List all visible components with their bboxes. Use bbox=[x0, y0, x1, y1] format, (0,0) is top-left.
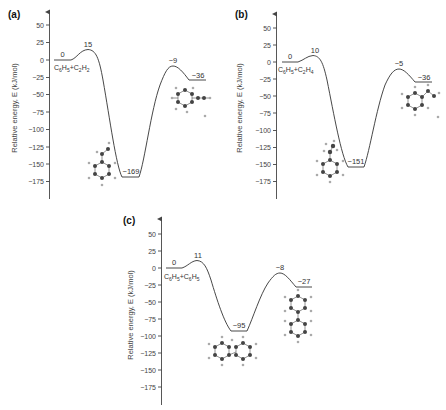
svg-text:50: 50 bbox=[263, 25, 271, 32]
svg-text:0: 0 bbox=[40, 57, 44, 64]
svg-text:25: 25 bbox=[263, 42, 271, 49]
svg-text:−151: −151 bbox=[348, 157, 365, 166]
svg-text:−36: −36 bbox=[418, 73, 431, 82]
molecule-intermediate-b bbox=[316, 140, 345, 184]
energy-diagrams: (a) 50 25 0 −25 −50 −75 −100 −125 −150 −… bbox=[0, 0, 446, 410]
y-ticks-b: 50 25 0 −25 −50 −75 −100 −125 −150 −175 bbox=[255, 25, 276, 186]
reactants-label-c: C6H5+C6H5 bbox=[164, 273, 200, 282]
svg-text:−25: −25 bbox=[259, 76, 271, 83]
molecule-product-a bbox=[171, 87, 212, 118]
svg-text:25: 25 bbox=[148, 248, 156, 255]
svg-text:−25: −25 bbox=[144, 282, 156, 289]
svg-text:−175: −175 bbox=[28, 178, 44, 185]
svg-text:−150: −150 bbox=[28, 161, 44, 168]
panel-label-c: (c) bbox=[123, 215, 135, 226]
y-ticks-c: 50 25 0 −25 −50 −75 −100 −125 −150 −175 bbox=[140, 231, 161, 391]
molecule-intermediate-c bbox=[208, 336, 258, 367]
svg-text:−100: −100 bbox=[140, 333, 156, 340]
svg-text:0: 0 bbox=[288, 52, 292, 61]
svg-text:−95: −95 bbox=[233, 321, 246, 330]
molecule-intermediate-a bbox=[88, 142, 117, 187]
svg-text:−100: −100 bbox=[28, 126, 44, 133]
svg-text:−50: −50 bbox=[32, 91, 44, 98]
svg-text:−125: −125 bbox=[28, 144, 44, 151]
svg-text:−100: −100 bbox=[255, 127, 271, 134]
svg-text:−169: −169 bbox=[123, 167, 140, 176]
panel-label-b: (b) bbox=[235, 9, 248, 20]
svg-text:−125: −125 bbox=[255, 144, 271, 151]
svg-text:−175: −175 bbox=[140, 384, 156, 391]
svg-text:0: 0 bbox=[60, 50, 64, 59]
svg-text:−75: −75 bbox=[144, 316, 156, 323]
svg-text:−75: −75 bbox=[259, 110, 271, 117]
svg-text:10: 10 bbox=[311, 46, 319, 55]
svg-text:11: 11 bbox=[194, 251, 202, 260]
svg-text:0: 0 bbox=[267, 59, 271, 66]
svg-text:15: 15 bbox=[84, 40, 92, 49]
svg-text:−175: −175 bbox=[255, 178, 271, 185]
svg-text:−50: −50 bbox=[144, 299, 156, 306]
svg-text:50: 50 bbox=[148, 231, 156, 238]
molecule-product-b bbox=[401, 84, 441, 119]
y-axis-label-c: Relative energy, E (kJ/mol) bbox=[126, 270, 135, 360]
y-axis-label-b: Relative energy, E (kJ/mol) bbox=[235, 63, 244, 153]
y-ticks-a: 50 25 0 −25 −50 −75 −100 −125 −150 −175 bbox=[28, 22, 49, 186]
svg-text:−50: −50 bbox=[259, 93, 271, 100]
svg-text:−25: −25 bbox=[32, 74, 44, 81]
svg-text:−9: −9 bbox=[169, 56, 178, 65]
svg-text:−150: −150 bbox=[255, 161, 271, 168]
svg-text:−75: −75 bbox=[32, 109, 44, 116]
svg-text:0: 0 bbox=[172, 258, 176, 267]
svg-text:−150: −150 bbox=[140, 367, 156, 374]
panel-label-a: (a) bbox=[8, 9, 20, 20]
panel-b: (b) 50 25 0 −25 −50 −75 −100 −125 −150 −… bbox=[235, 9, 440, 199]
svg-text:−5: −5 bbox=[395, 59, 404, 68]
panel-c: (c) 50 25 0 −25 −50 −75 −100 −125 −150 −… bbox=[123, 215, 312, 405]
svg-text:0: 0 bbox=[152, 265, 156, 272]
y-axis-label-a: Relative energy, E (kJ/mol) bbox=[10, 63, 19, 153]
svg-text:−27: −27 bbox=[298, 277, 311, 286]
molecule-product-c bbox=[284, 289, 313, 344]
svg-text:−8: −8 bbox=[276, 263, 285, 272]
reactants-label-a: C6H5+C2H2 bbox=[54, 64, 90, 73]
svg-text:−36: −36 bbox=[192, 71, 205, 80]
panel-a: (a) 50 25 0 −25 −50 −75 −100 −125 −150 −… bbox=[8, 9, 211, 199]
svg-text:25: 25 bbox=[36, 39, 44, 46]
svg-text:−125: −125 bbox=[140, 350, 156, 357]
svg-text:50: 50 bbox=[36, 22, 44, 29]
reactants-label-b: C6H5+C2H4 bbox=[278, 66, 314, 75]
